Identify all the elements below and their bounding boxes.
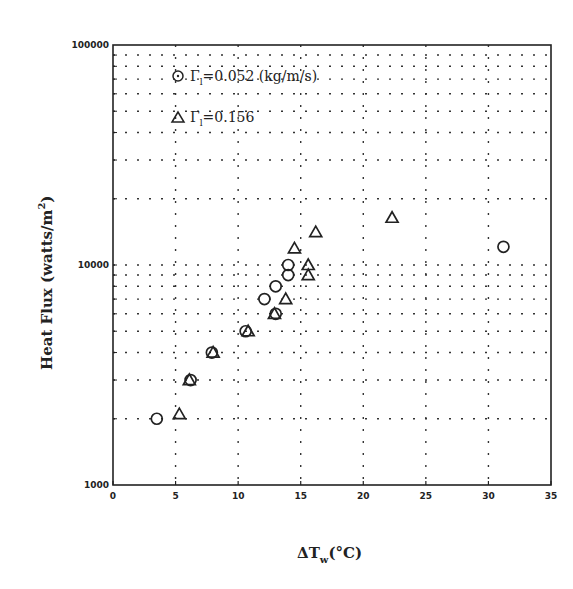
data-point-triangle xyxy=(280,293,292,304)
y-tick-label: 1000 xyxy=(84,480,109,490)
x-tick-label: 35 xyxy=(545,491,558,501)
x-tick-label: 30 xyxy=(482,491,495,501)
legend-triangle-icon xyxy=(172,112,184,122)
data-point-triangle xyxy=(310,226,322,237)
data-points xyxy=(151,212,509,425)
data-point-circle xyxy=(259,294,270,305)
x-axis-label: ΔTw(°C) xyxy=(297,544,362,565)
data-point-circle xyxy=(270,281,281,292)
legend-circle-dot xyxy=(177,75,179,77)
x-tick-label: 10 xyxy=(232,491,245,501)
axis-ticks: 05101520253035100010000100000 xyxy=(71,40,557,501)
legend: Γl=0.052 (kg/m/s) Γl=0.156 xyxy=(172,68,317,128)
legend-entry-1: Γl=0.052 (kg/m/s) xyxy=(190,68,317,87)
x-tick-label: 20 xyxy=(357,491,370,501)
data-point-circle xyxy=(151,413,162,424)
x-tick-label: 0 xyxy=(110,491,116,501)
x-tick-label: 15 xyxy=(294,491,307,501)
data-point-triangle xyxy=(173,408,185,419)
heat-flux-chart: 05101520253035100010000100000 Γl=0.052 (… xyxy=(0,0,573,589)
data-point-triangle xyxy=(302,269,314,280)
y-axis-label: Heat Flux (watts/m2) xyxy=(36,196,56,370)
y-tick-label: 100000 xyxy=(71,40,109,50)
y-tick-label: 10000 xyxy=(78,260,109,270)
data-point-triangle xyxy=(386,212,398,223)
data-point-triangle xyxy=(288,242,300,253)
data-point-circle xyxy=(498,241,509,252)
x-tick-label: 5 xyxy=(172,491,178,501)
legend-entry-2: Γl=0.156 xyxy=(190,109,255,128)
x-tick-label: 25 xyxy=(420,491,433,501)
